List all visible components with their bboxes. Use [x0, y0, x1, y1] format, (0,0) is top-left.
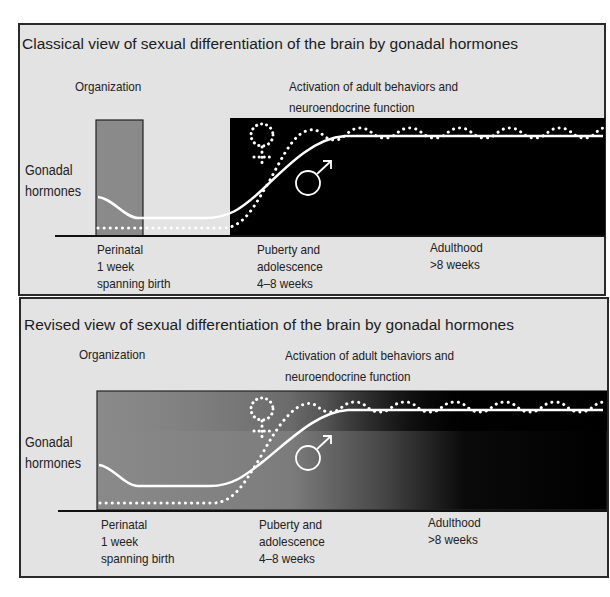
revised-diagram-graphic [0, 0, 610, 597]
